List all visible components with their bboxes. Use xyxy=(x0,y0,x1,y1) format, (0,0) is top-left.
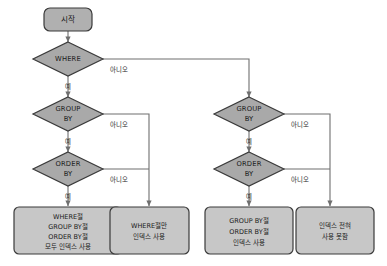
result-where-only-line-2: 인덱스 사용 xyxy=(133,232,165,241)
orderby-left-label-line1: ORDER xyxy=(55,160,80,168)
edge-label-orderby-left-yes: 예 xyxy=(65,192,71,201)
node-result-all-index[interactable]: WHERE절 GROUP BY절 ORDER BY절 모두 인덱스 사용 xyxy=(14,207,122,254)
result-group-order-line-1: GROUP BY절 xyxy=(229,217,269,225)
connector-where-no xyxy=(103,59,249,97)
node-result-where-only[interactable]: WHERE절만 인덱스 사용 xyxy=(110,207,189,254)
result-all-index-line-1: WHERE절 xyxy=(53,213,83,221)
edge-label-where-yes: 예 xyxy=(65,82,71,91)
edge-label-orderby-right-yes: 예 xyxy=(246,192,252,201)
edge-label-groupby-left-yes: 예 xyxy=(65,137,71,146)
result-where-only-line-1: WHERE절만 xyxy=(131,221,167,230)
where-label: WHERE xyxy=(55,55,81,63)
result-group-order-line-3: 인덱스 사용 xyxy=(233,238,265,247)
edge-label-groupby-right-yes: 예 xyxy=(246,137,252,146)
result-no-index-line-1: 인덱스 전혀 xyxy=(319,221,351,230)
result-group-order-line-2: ORDER BY절 xyxy=(229,228,268,236)
node-decision-where[interactable]: WHERE xyxy=(33,42,103,76)
groupby-left-label-line2: BY xyxy=(64,115,73,123)
edge-label-orderby-right-no: 아니오 xyxy=(291,175,309,184)
flowchart-canvas: 예 아니오 예 아니오 예 아니오 예 아니오 예 아니오 시작 WHERE G… xyxy=(0,0,387,266)
edge-label-where-no: 아니오 xyxy=(110,65,128,74)
orderby-right-label-line1: ORDER xyxy=(236,160,261,168)
orderby-right-label-line2: BY xyxy=(245,170,254,178)
result-all-index-line-2: GROUP BY절 xyxy=(48,223,88,231)
result-all-index-line-4: 모두 인덱스 사용 xyxy=(45,242,91,251)
node-decision-groupby-left[interactable]: GROUP BY xyxy=(33,97,103,131)
result-where-only-shape[interactable] xyxy=(110,207,189,254)
node-decision-orderby-left[interactable]: ORDER BY xyxy=(33,152,103,186)
start-label: 시작 xyxy=(61,14,75,24)
node-start[interactable]: 시작 xyxy=(44,8,92,31)
flowchart-svg: 예 아니오 예 아니오 예 아니오 예 아니오 예 아니오 시작 WHERE G… xyxy=(0,0,387,266)
edge-label-orderby-left-no: 아니오 xyxy=(110,175,128,184)
node-decision-orderby-right[interactable]: ORDER BY xyxy=(214,152,284,186)
node-result-no-index[interactable]: 인덱스 전혀 사용 못함 xyxy=(296,207,374,254)
result-no-index-shape[interactable] xyxy=(296,207,374,254)
edge-label-groupby-left-no: 아니오 xyxy=(110,120,128,129)
orderby-left-label-line2: BY xyxy=(64,170,73,178)
node-decision-groupby-right[interactable]: GROUP BY xyxy=(214,97,284,131)
groupby-right-label-line1: GROUP xyxy=(236,105,261,113)
groupby-right-label-line2: BY xyxy=(245,115,254,123)
node-result-group-order[interactable]: GROUP BY절 ORDER BY절 인덱스 사용 xyxy=(205,207,293,254)
edge-label-layer: 예 아니오 예 아니오 예 아니오 예 아니오 예 아니오 xyxy=(65,65,309,201)
result-no-index-line-2: 사용 못함 xyxy=(322,232,348,241)
result-all-index-line-3: ORDER BY절 xyxy=(48,233,87,241)
edge-label-groupby-right-no: 아니오 xyxy=(291,120,309,129)
groupby-left-label-line1: GROUP xyxy=(55,105,80,113)
